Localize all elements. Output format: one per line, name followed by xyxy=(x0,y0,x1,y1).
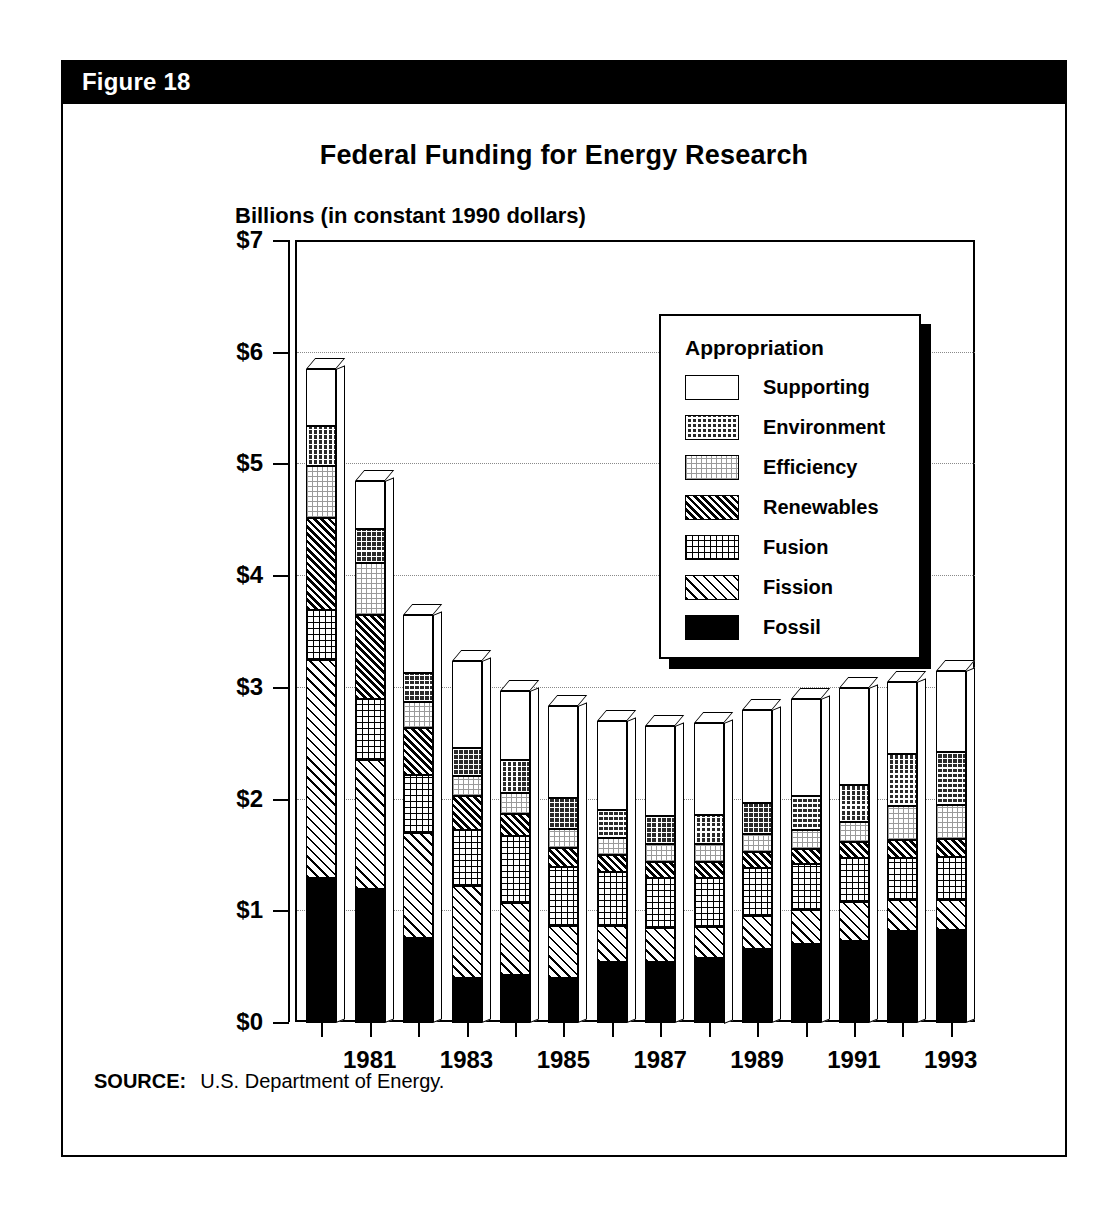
y-axis-tick-label: $5 xyxy=(193,449,263,477)
bar-side-face xyxy=(530,688,539,1023)
bar-segment-environment xyxy=(452,748,482,776)
legend-swatch-icon xyxy=(685,415,739,440)
y-axis-tick-label: $4 xyxy=(193,561,263,589)
legend-item-supporting[interactable]: Supporting xyxy=(685,372,870,402)
bar-segment-environment xyxy=(887,754,917,807)
bar-segment-fusion xyxy=(694,878,724,927)
y-axis-tick-label: $2 xyxy=(193,785,263,813)
bar-segment-fossil xyxy=(597,962,627,1023)
bar-segment-fission xyxy=(403,833,433,938)
x-axis-tick-label: 1987 xyxy=(615,1046,705,1074)
bar-segment-renewables xyxy=(791,849,821,865)
bar-segment-environment xyxy=(500,760,530,792)
bar-segment-renewables xyxy=(645,862,675,878)
bar-segment-renewables xyxy=(694,862,724,878)
bar-segment-fusion xyxy=(839,858,869,903)
source-text: U.S. Department of Energy. xyxy=(200,1070,444,1092)
bar-segment-efficiency xyxy=(742,834,772,852)
bar-segment-fossil xyxy=(500,975,530,1023)
legend-swatch-icon xyxy=(685,495,739,520)
bar-segment-renewables xyxy=(548,848,578,867)
bar-segment-fossil xyxy=(452,978,482,1023)
bar-segment-fission xyxy=(500,903,530,974)
bar-segment-renewables xyxy=(355,615,385,699)
bar-segment-fossil xyxy=(694,958,724,1023)
bar-segment-environment xyxy=(403,673,433,702)
legend-item-renewables[interactable]: Renewables xyxy=(685,492,879,522)
y-axis-tick-label: $6 xyxy=(193,338,263,366)
legend-item-fission[interactable]: Fission xyxy=(685,572,833,602)
bar-1982 xyxy=(403,241,433,1023)
bar-segment-fossil xyxy=(355,889,385,1023)
bar-segment-efficiency xyxy=(597,838,627,856)
bar-segment-renewables xyxy=(306,518,336,610)
bar-segment-supporting xyxy=(306,369,336,426)
x-axis-tick xyxy=(612,1022,614,1037)
bar-segment-supporting xyxy=(500,691,530,760)
bar-segment-environment xyxy=(548,798,578,828)
bar-side-face xyxy=(336,366,345,1023)
bar-segment-fossil xyxy=(887,931,917,1023)
bar-segment-fusion xyxy=(936,857,966,901)
bar-side-face xyxy=(724,719,733,1023)
bar-segment-fission xyxy=(839,902,869,941)
bar-segment-fossil xyxy=(936,930,966,1023)
y-axis-units-caption: Billions (in constant 1990 dollars) xyxy=(235,203,586,229)
bar-segment-fossil xyxy=(791,944,821,1023)
x-axis-tick xyxy=(321,1022,323,1037)
legend-swatch-icon xyxy=(685,535,739,560)
legend-item-environment[interactable]: Environment xyxy=(685,412,885,442)
bar-segment-supporting xyxy=(452,661,482,748)
bar-1984 xyxy=(500,241,530,1023)
y-axis-tick-label: $7 xyxy=(193,226,263,254)
bar-segment-efficiency xyxy=(355,563,385,616)
bar-segment-supporting xyxy=(355,481,385,529)
bar-segment-fission xyxy=(355,760,385,888)
bar-1981 xyxy=(355,241,385,1023)
y-axis-tick xyxy=(273,575,289,577)
bar-segment-efficiency xyxy=(839,822,869,842)
y-axis-tick-label: $3 xyxy=(193,673,263,701)
bar-segment-environment xyxy=(694,815,724,844)
bar-segment-environment xyxy=(597,810,627,838)
bar-segment-fission xyxy=(887,900,917,931)
bar-side-face xyxy=(772,707,781,1023)
legend-title: Appropriation xyxy=(685,336,824,360)
bar-segment-supporting xyxy=(645,726,675,816)
legend-item-label: Efficiency xyxy=(763,456,857,479)
bar-side-face xyxy=(627,718,636,1023)
bar-1983 xyxy=(452,241,482,1023)
figure-header-band: Figure 18 xyxy=(63,62,1065,104)
y-axis-tick-label: $0 xyxy=(193,1008,263,1036)
bar-side-face xyxy=(869,684,878,1023)
y-axis-wall xyxy=(288,240,297,1022)
x-axis-tick xyxy=(418,1022,420,1037)
bar-segment-fossil xyxy=(839,941,869,1023)
bar-segment-environment xyxy=(839,785,869,822)
figure-frame: Figure 18 Federal Funding for Energy Res… xyxy=(61,60,1067,1157)
bar-segment-fission xyxy=(306,660,336,878)
x-axis-tick xyxy=(709,1022,711,1037)
bar-segment-supporting xyxy=(742,710,772,803)
legend-item-efficiency[interactable]: Efficiency xyxy=(685,452,857,482)
x-axis-tick xyxy=(902,1022,904,1037)
y-axis-tick xyxy=(273,463,289,465)
bar-segment-renewables xyxy=(500,814,530,836)
bar-segment-efficiency xyxy=(452,776,482,796)
bar-segment-fusion xyxy=(500,836,530,903)
legend-item-fusion[interactable]: Fusion xyxy=(685,532,829,562)
x-axis-tick xyxy=(370,1022,372,1037)
bar-segment-fusion xyxy=(548,867,578,926)
bar-segment-fission xyxy=(694,927,724,958)
legend-item-fossil[interactable]: Fossil xyxy=(685,612,821,642)
bar-segment-environment xyxy=(306,426,336,465)
bar-1993 xyxy=(936,241,966,1023)
bar-segment-efficiency xyxy=(791,830,821,849)
bar-segment-fusion xyxy=(306,610,336,660)
bar-segment-fission xyxy=(742,916,772,950)
bar-segment-environment xyxy=(355,529,385,563)
bar-segment-renewables xyxy=(403,728,433,775)
bar-segment-fusion xyxy=(742,868,772,916)
bar-segment-supporting xyxy=(548,706,578,799)
bar-segment-environment xyxy=(791,796,821,830)
